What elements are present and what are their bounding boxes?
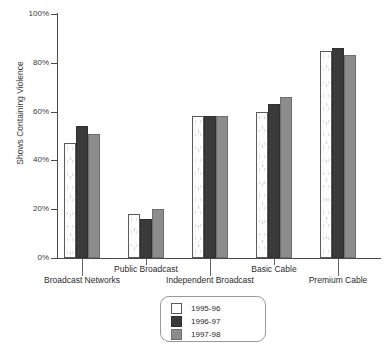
y-axis-tick <box>51 160 58 161</box>
chart-legend: 1995-961996-971997-98 <box>160 296 266 342</box>
x-axis-line <box>57 258 381 259</box>
y-axis-tick-label: 100% <box>5 9 49 18</box>
legend-swatch <box>171 316 182 327</box>
x-axis-category-label: Premium Cable <box>258 275 386 285</box>
violence-bar-chart: Shows Containing Violence 0%20%40%60%80%… <box>0 0 386 343</box>
bar <box>192 116 204 258</box>
bar <box>344 55 356 258</box>
plot-area <box>58 14 380 258</box>
bar-group <box>128 14 164 258</box>
bar <box>280 97 292 258</box>
x-axis-tick <box>338 259 339 276</box>
y-axis-tick <box>51 63 58 64</box>
bar <box>88 134 100 258</box>
y-axis-tick-label: 40% <box>5 155 49 164</box>
y-axis-tick <box>51 258 58 259</box>
legend-item: 1997-98 <box>171 328 220 340</box>
bar <box>332 48 344 258</box>
bar <box>256 112 268 258</box>
legend-label: 1997-98 <box>191 330 220 339</box>
y-axis-tick-label: 20% <box>5 204 49 213</box>
y-axis-tick-label: 80% <box>5 58 49 67</box>
bar-group <box>64 14 100 258</box>
legend-swatch <box>171 303 182 314</box>
bar <box>76 126 88 258</box>
bar-group <box>320 14 356 258</box>
legend-label: 1995-96 <box>191 304 220 313</box>
y-axis-tick <box>51 112 58 113</box>
legend-swatch <box>171 329 182 340</box>
y-axis-tick <box>51 14 58 15</box>
y-axis-tick <box>51 209 58 210</box>
bar <box>140 219 152 258</box>
bar-group <box>192 14 228 258</box>
x-axis-category-label: Basic Cable <box>194 264 354 274</box>
bar <box>64 143 76 258</box>
bar <box>152 209 164 258</box>
bar <box>216 116 228 258</box>
y-axis-tick-label: 0% <box>5 253 49 262</box>
bar <box>268 104 280 258</box>
bar-group <box>256 14 292 258</box>
bar <box>128 214 140 258</box>
bar <box>204 116 216 258</box>
legend-item: 1995-96 <box>171 302 220 314</box>
bar <box>320 51 332 258</box>
legend-label: 1996-97 <box>191 317 220 326</box>
y-axis-tick-label: 60% <box>5 107 49 116</box>
legend-item: 1996-97 <box>171 315 220 327</box>
